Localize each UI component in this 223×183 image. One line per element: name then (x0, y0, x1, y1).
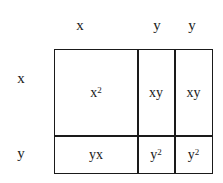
cell-exponent: 2 (97, 85, 102, 95)
cell-base: yx (89, 147, 103, 163)
column-label-x: x (76, 18, 84, 33)
cell-y-squared-1: y2 (138, 137, 174, 173)
cell-exponent: 2 (157, 147, 162, 157)
cell-xy-2: xy (175, 50, 212, 135)
column-label-y-1: y (153, 18, 161, 33)
cell-y-squared-2: y2 (175, 137, 212, 173)
row-label-y: y (17, 146, 25, 161)
cell-base: y (188, 147, 195, 163)
cell-xy-1: xy (138, 50, 174, 135)
cell-yx: yx (55, 137, 137, 173)
cell-base: xy (149, 85, 163, 101)
cell-base: x (90, 85, 97, 101)
row-label-x: x (17, 71, 25, 86)
cell-exponent: 2 (195, 147, 200, 157)
column-label-y-2: y (188, 18, 196, 33)
cell-base: xy (187, 85, 201, 101)
cell-base: y (150, 147, 157, 163)
cell-x-squared: x2 (55, 50, 137, 135)
